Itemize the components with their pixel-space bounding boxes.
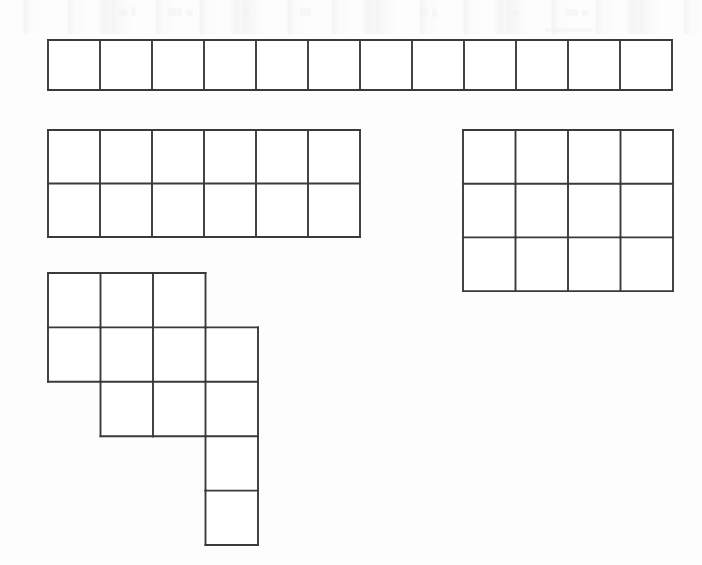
grid-cell xyxy=(568,130,621,184)
grid-cell xyxy=(621,184,674,238)
grid-cell xyxy=(204,130,256,184)
shape-rectangle-six-by-two xyxy=(48,130,360,237)
grid-cell xyxy=(620,40,672,90)
grid-cell xyxy=(48,184,100,238)
grid-cell xyxy=(153,273,206,327)
grid-cell xyxy=(308,40,360,90)
grid-cell xyxy=(204,184,256,238)
grid-cell xyxy=(101,327,154,381)
grid-cell xyxy=(152,130,204,184)
grid-cell xyxy=(206,327,259,381)
grid-cell xyxy=(568,40,620,90)
grid-cell xyxy=(412,40,464,90)
grid-cell xyxy=(463,130,516,184)
grid-cell xyxy=(256,184,308,238)
grid-cell xyxy=(206,382,259,436)
grid-cell xyxy=(48,40,100,90)
grid-cell xyxy=(100,130,152,184)
grid-cell xyxy=(621,130,674,184)
grid-cell xyxy=(516,237,569,291)
shape-rectangle-four-by-three xyxy=(463,130,673,291)
grid-cell xyxy=(256,40,308,90)
grid-cell xyxy=(516,40,568,90)
grid-cell xyxy=(206,491,259,545)
grid-cell xyxy=(463,184,516,238)
shape-horizontal-strip xyxy=(48,40,672,90)
grid-cell xyxy=(48,327,101,381)
worksheet-canvas xyxy=(0,0,702,565)
grid-cell xyxy=(101,382,154,436)
grid-cell xyxy=(621,237,674,291)
grid-cell xyxy=(308,184,360,238)
grid-cell xyxy=(152,40,204,90)
grid-cell xyxy=(360,40,412,90)
grid-cell xyxy=(153,327,206,381)
grid-cell xyxy=(463,237,516,291)
grid-cell xyxy=(568,237,621,291)
grid-cell xyxy=(256,130,308,184)
grid-cell xyxy=(568,184,621,238)
grid-cell xyxy=(100,40,152,90)
grid-cell xyxy=(48,273,101,327)
grid-cell xyxy=(464,40,516,90)
grid-cell xyxy=(516,184,569,238)
grid-cell xyxy=(100,184,152,238)
grid-cell xyxy=(101,273,154,327)
grid-cell xyxy=(152,184,204,238)
grid-cell xyxy=(48,130,100,184)
grid-cell xyxy=(516,130,569,184)
shapes-figure xyxy=(0,0,702,565)
grid-cell xyxy=(153,382,206,436)
grid-cell xyxy=(308,130,360,184)
shape-staircase-polyomino xyxy=(48,273,258,545)
grid-cell xyxy=(204,40,256,90)
shapes-root xyxy=(48,40,673,545)
grid-cell xyxy=(206,436,259,490)
